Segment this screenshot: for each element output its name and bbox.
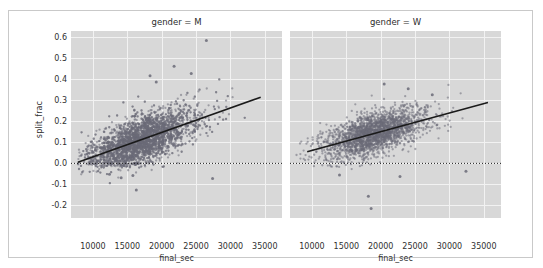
x-tick-label: 15000 — [334, 242, 359, 251]
x-tick-label: 25000 — [402, 242, 427, 251]
y-tick-label: -0.2 — [33, 201, 67, 210]
y-tick-label: 0.6 — [33, 33, 67, 42]
x-tick-label: 30000 — [218, 242, 243, 251]
x-tick-label: 25000 — [183, 242, 208, 251]
y-tick-label: 0.2 — [33, 117, 67, 126]
x-axis-label-m: final_sec — [71, 254, 282, 263]
x-tick-label: 20000 — [368, 242, 393, 251]
x-tick-label: 20000 — [149, 242, 174, 251]
x-tick-label: 30000 — [437, 242, 462, 251]
y-axis-ticks: 0.60.50.40.30.20.10.0-0.1-0.2 — [33, 11, 67, 259]
x-axis-ticks-m: 100001500020000250003000035000 — [71, 242, 282, 254]
facet-title-m: gender = M — [71, 17, 282, 27]
y-tick-label: 0.4 — [33, 75, 67, 84]
y-tick-label: 0.0 — [33, 159, 67, 168]
x-tick-label: 35000 — [471, 242, 496, 251]
facet-title-w: gender = W — [290, 17, 501, 27]
y-tick-label: -0.1 — [33, 180, 67, 189]
facet-panel-w: gender = W 10000150002000025000300003500… — [290, 31, 501, 218]
facet-panel-m: gender = M 10000150002000025000300003500… — [71, 31, 282, 218]
x-tick-label: 15000 — [115, 242, 140, 251]
plot-area-w — [290, 31, 501, 218]
x-tick-label: 10000 — [299, 242, 324, 251]
figure-frame: split_frac 0.60.50.40.30.20.10.0-0.1-0.2… — [8, 10, 533, 258]
plot-area-m — [71, 31, 282, 218]
y-tick-label: 0.5 — [33, 54, 67, 63]
x-tick-label: 35000 — [252, 242, 277, 251]
regression-overlay-m — [71, 31, 282, 218]
y-tick-label: 0.3 — [33, 96, 67, 105]
regression-overlay-w — [290, 31, 501, 218]
x-axis-ticks-w: 100001500020000250003000035000 — [290, 242, 501, 254]
x-axis-label-w: final_sec — [290, 254, 501, 263]
x-tick-label: 10000 — [80, 242, 105, 251]
y-tick-label: 0.1 — [33, 138, 67, 147]
